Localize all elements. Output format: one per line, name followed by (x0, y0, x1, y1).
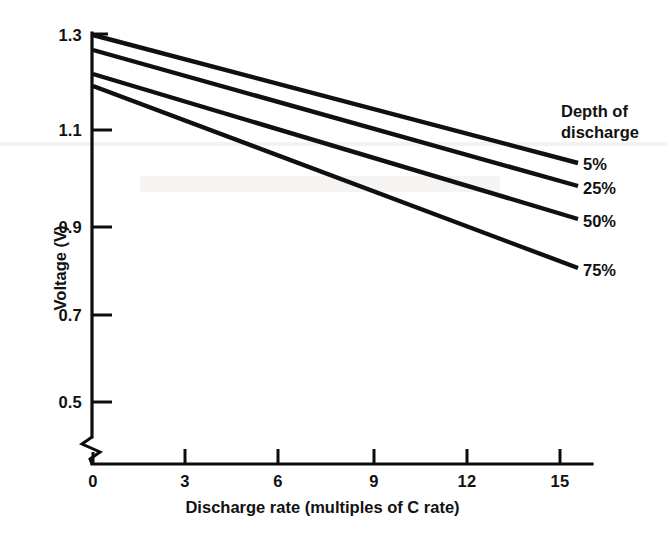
y-tick-label-1.1: 1.1 (38, 121, 82, 140)
legend-title-line-1: Depth of (561, 101, 628, 121)
x-tick-marks (93, 449, 560, 464)
series-line-5pct (93, 35, 578, 163)
x-tick-label-6: 6 (273, 472, 282, 491)
series-line-25pct (93, 50, 578, 186)
series-label-25pct: 25% (583, 179, 616, 198)
series-line-50pct (93, 74, 578, 219)
x-tick-label-12: 12 (458, 472, 477, 491)
x-tick-label-0: 0 (88, 472, 97, 491)
x-tick-label-9: 9 (369, 472, 378, 491)
chart-canvas (0, 0, 667, 537)
y-tick-label-0.5: 0.5 (38, 393, 82, 412)
x-tick-label-15: 15 (551, 472, 570, 491)
x-axis-title: Discharge rate (multiples of C rate) (185, 498, 459, 517)
legend-title-line-2: discharge (561, 122, 639, 142)
chart-figure: 1.3 1.1 0.9 0.7 0.5 0 3 6 9 12 15 Discha… (0, 0, 667, 537)
x-tick-label-3: 3 (180, 472, 189, 491)
y-axis-break-icon (82, 437, 100, 464)
y-axis-title: Voltage (V) (51, 226, 70, 311)
series-label-75pct: 75% (583, 261, 616, 280)
series-group (93, 35, 578, 268)
y-tick-label-1.3: 1.3 (38, 26, 82, 45)
series-line-75pct (93, 86, 578, 268)
series-label-50pct: 50% (583, 212, 616, 231)
series-label-5pct: 5% (583, 155, 607, 174)
